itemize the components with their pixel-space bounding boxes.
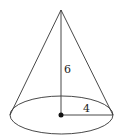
- center-point: [59, 113, 64, 118]
- radius-label: 4: [83, 103, 90, 114]
- cone-diagram: 6 4: [0, 0, 130, 137]
- left-slant-edge: [10, 10, 61, 115]
- height-label: 6: [64, 64, 71, 75]
